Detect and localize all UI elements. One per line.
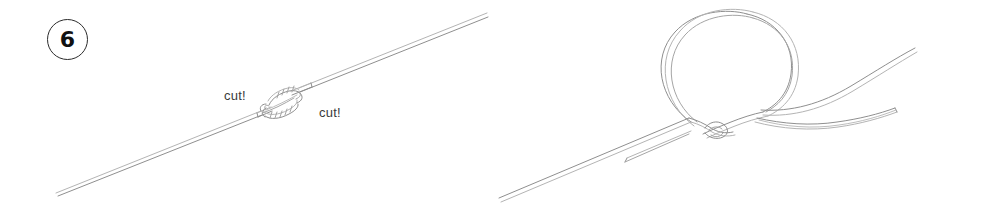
step-badge-6: 6 [47,19,88,60]
instruction-panel-step-3: 3 [491,0,983,221]
cut-label-left: cut! [224,88,246,103]
cut-label-right: cut! [319,105,341,120]
step-badge-number: 6 [60,28,75,50]
knot-instruction-figure: 6 cut! cut! [0,0,983,221]
instruction-panel-step-6: 6 cut! cut! [0,0,491,221]
knot-illustration-step-3 [491,0,983,221]
